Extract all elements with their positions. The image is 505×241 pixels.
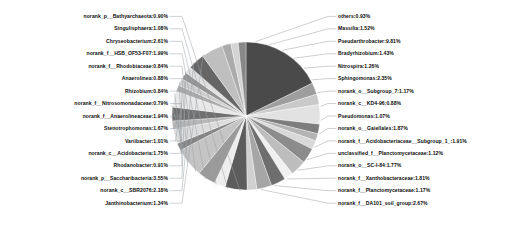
pie-label-Pseudarthrobacter: Pseudarthrobacter:9.81% [338, 38, 401, 44]
leader-line [320, 104, 336, 107]
pie-chart-canvas [0, 0, 505, 241]
pie-label-Nitrospira: Nitrospira:1.26% [338, 63, 379, 69]
leader-line [274, 186, 336, 191]
leader-line [269, 29, 336, 45]
leader-line [294, 54, 336, 58]
leader-line [317, 91, 336, 93]
pie-chart-figure: norank_p__Bathyarchaeota:0.90%Singulisph… [0, 0, 505, 241]
pie-label-Janthinobacterium: Janthinobacterium:1.34% [105, 200, 168, 206]
pie-label-norank_p__Saccharibacteria: norank_p__Saccharibacteria:3.55% [81, 175, 168, 181]
leader-line [282, 41, 336, 50]
pie-label-Rhizobium: Rhizobium:0.84% [125, 88, 168, 94]
leader-line [321, 116, 336, 120]
pie-label-others: others:0.93% [338, 13, 370, 19]
leader-line [261, 190, 336, 204]
pie-label-Bradyrhizobium: Bradyrhizobium:1.43% [338, 50, 394, 56]
pie-label-norank_f__HSB_OF53-F07: norank_f__HSB_OF53-F07:1.99% [86, 50, 168, 56]
leader-line [304, 66, 336, 68]
pie-label-norank_f__Nitrosomonadaceae: norank_f__Nitrosomonadaceae:0.79% [74, 100, 168, 106]
pie-label-Anaerolinea: Anaerolinea:0.88% [122, 75, 168, 81]
pie-label-norank_f__Anaerolineaceae: norank_f__Anaerolineaceae:1.94% [83, 113, 168, 119]
pie-label-Sphingomonas: Sphingomonas:2.35% [338, 75, 392, 81]
pie-label-norank_f__Acidobacteriaceae__Subgroup_1_: norank_f__Acidobacteriaceae__Subgroup_1_… [338, 138, 467, 144]
pie-label-Stenotrophomonas: Stenotrophomonas:1.67% [104, 125, 168, 131]
pie-label-norank_c__SBR2076: norank_c__SBR2076:2.18% [100, 187, 168, 193]
leader-line [319, 128, 336, 134]
pie-label-norank_o__SC-I-84: norank_o__SC-I-84:1.77% [338, 162, 401, 168]
pie-label-norank_o__Subgroup_7: norank_o__Subgroup_7:1.17% [338, 88, 414, 94]
pie-label-Massilia: Massilia:1.52% [338, 25, 375, 31]
pie-label-norank_f__DA101_soil_group: norank_f__DA101_soil_group:2.67% [338, 200, 428, 206]
pie-label-Variibacter: Variibacter:1.01% [125, 138, 168, 144]
pie-label-norank_c__KD4-96: norank_c__KD4-96:0.88% [338, 100, 401, 106]
pie-label-norank_c__Acidobacteria: norank_c__Acidobacteria:1.75% [88, 150, 168, 156]
pie-label-Singulisphaera: Singulisphaera:1.08% [114, 25, 168, 31]
pie-label-unclassified_f__Planctomycetaceae: unclassified_f__Planctomycetaceae:1.12% [338, 150, 443, 156]
leader-line [287, 178, 336, 179]
pie-label-norank_f__Rhodobiaceae: norank_f__Rhodobiaceae:0.84% [88, 63, 168, 69]
pie-label-norank_f__Xanthobacteraceae: norank_f__Xanthobacteraceae:1.81% [338, 175, 430, 181]
pie-label-norank_o__Gaiellales: norank_o__Gaiellales:1.87% [338, 125, 408, 131]
pie-label-Rhodanobacter: Rhodanobacter:0.91% [114, 162, 168, 168]
pie-label-norank_f__Planctomycetaceae: norank_f__Planctomycetaceae:1.17% [338, 187, 430, 193]
leader-line [256, 16, 336, 41]
leader-line [312, 79, 336, 80]
leader-line [314, 141, 336, 148]
leader-line [298, 166, 336, 171]
pie-label-Chryseobacterium: Chryseobacterium:2.61% [106, 38, 168, 44]
leader-line [307, 153, 336, 159]
pie-label-norank_p__Bathyarchaeota: norank_p__Bathyarchaeota:0.90% [84, 13, 168, 19]
pie-label-Pseudomonas: Pseudomonas:1.07% [338, 113, 390, 119]
